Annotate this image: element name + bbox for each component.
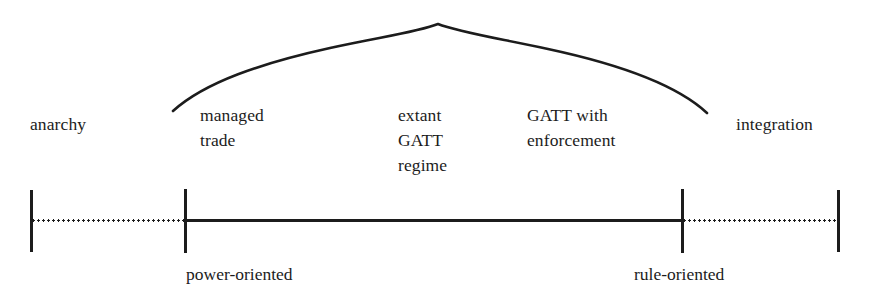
axis-segment-left-dotted bbox=[31, 219, 187, 222]
label-power-oriented: power-oriented bbox=[186, 262, 293, 287]
axis-tick-power-oriented bbox=[184, 189, 187, 253]
axis-tick-integration bbox=[837, 190, 840, 252]
continuum-diagram: anarchy managed trade extant GATT regime… bbox=[0, 0, 873, 306]
label-rule-oriented: rule-oriented bbox=[634, 262, 724, 287]
axis-tick-rule-oriented bbox=[681, 189, 684, 253]
label-extant-gatt-regime: extant GATT regime bbox=[398, 103, 447, 178]
label-managed-trade: managed trade bbox=[200, 103, 264, 153]
axis-tick-anarchy bbox=[30, 190, 33, 252]
axis-segment-right-dotted bbox=[682, 219, 840, 222]
label-integration: integration bbox=[736, 112, 813, 137]
label-anarchy: anarchy bbox=[30, 112, 86, 137]
axis-segment-middle-solid bbox=[185, 219, 684, 222]
label-gatt-with-enforcement: GATT with enforcement bbox=[527, 103, 616, 153]
